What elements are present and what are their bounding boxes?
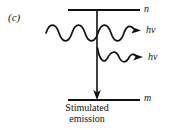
photon-energy-label-2: hν <box>148 52 157 62</box>
panel-label: (c) <box>8 12 20 23</box>
photon-energy-label-1: hν <box>146 25 155 35</box>
figure-caption: Stimulated emission <box>0 102 174 124</box>
caption-line-2: emission <box>0 113 174 124</box>
photon-wave-1 <box>46 25 134 41</box>
caption-line-1: Stimulated <box>0 102 174 113</box>
photon-arrow-head-1 <box>131 27 142 34</box>
stimulated-emission-figure: (c) n m hν hν Stimulated emission <box>0 0 174 130</box>
upper-energy-level-label: n <box>144 4 149 14</box>
photon-arrow-head-2 <box>133 54 144 61</box>
photon-wave-2 <box>98 48 136 62</box>
